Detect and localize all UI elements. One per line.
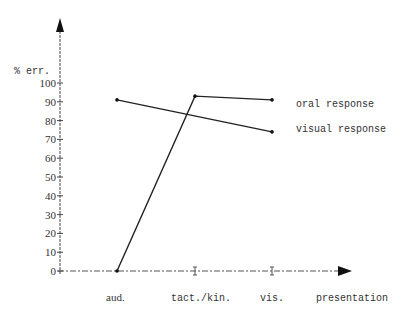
- y-tick-label: 0: [51, 265, 57, 277]
- y-tick-label: 100: [40, 77, 57, 89]
- y-axis-label: % err.: [14, 66, 50, 77]
- y-tick-label: 50: [45, 171, 57, 183]
- y-tick-label: 90: [45, 96, 57, 108]
- y-tick-label: 10: [45, 246, 57, 258]
- y-tick-label: 40: [45, 190, 57, 202]
- legend-visual-response: visual response: [296, 124, 386, 135]
- data-point: [270, 98, 274, 102]
- x-axis-arrow-icon: [338, 266, 352, 276]
- x-axis-label: presentation: [316, 293, 388, 304]
- y-tick-label: 60: [45, 152, 57, 164]
- data-series: [115, 94, 274, 272]
- y-axis-arrow-icon: [56, 18, 64, 32]
- y-tick-label: 20: [45, 227, 57, 239]
- x-category-vis: vis.: [260, 293, 284, 304]
- x-category-tact-kin: tact./kin.: [171, 293, 231, 304]
- data-point: [115, 98, 119, 102]
- x-category-aud: aud.: [106, 291, 125, 303]
- y-tick-label: 30: [45, 209, 57, 221]
- y-ticks: 0102030405060708090100: [40, 77, 64, 277]
- data-point: [270, 130, 274, 134]
- line-chart: 0102030405060708090100 % err. aud. tact.…: [0, 0, 407, 313]
- y-tick-label: 70: [45, 133, 57, 145]
- data-point: [193, 94, 197, 98]
- series-line: [117, 96, 272, 271]
- data-point: [115, 269, 119, 273]
- legend-oral-response: oral response: [296, 99, 374, 110]
- y-tick-label: 80: [45, 115, 57, 127]
- series-line: [117, 100, 272, 132]
